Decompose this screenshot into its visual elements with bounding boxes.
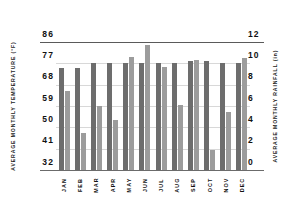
- y-axis-left-tick-label: 50: [14, 115, 54, 124]
- y-axis-right-tick-label: 6: [248, 94, 288, 103]
- bar-group-oct: [202, 42, 218, 170]
- x-axis-label-sep: SEP: [190, 178, 196, 192]
- x-axis-label-aug: AUG: [174, 177, 180, 192]
- temperature-bar: [156, 63, 161, 170]
- rainfall-bar: [178, 105, 183, 170]
- bar-group-sep: [185, 42, 201, 170]
- x-axis-label-jul: JUL: [158, 178, 164, 191]
- bar-group-apr: [105, 42, 121, 170]
- x-axis-label-slot: MAR: [88, 172, 104, 208]
- x-axis-label-nov: NOV: [223, 178, 229, 193]
- temperature-bar: [59, 68, 64, 170]
- rainfall-bar: [113, 120, 118, 170]
- x-axis-label-slot: OCT: [202, 172, 218, 208]
- rainfall-bar: [226, 112, 231, 170]
- bar-group-dec: [234, 42, 250, 170]
- x-axis-label-slot: AUG: [169, 172, 185, 208]
- x-axis-label-slot: APR: [105, 172, 121, 208]
- x-axis-label-slot: JAN: [56, 172, 72, 208]
- rainfall-bar: [162, 67, 167, 170]
- climate-bar-chart: AVERAGE MONTHLY TEMPERATURE (°F) AVERAGE…: [0, 0, 288, 210]
- rainfall-bar: [210, 150, 215, 170]
- x-axis-label-jun: JUN: [142, 178, 148, 192]
- temperature-bar: [204, 61, 209, 170]
- temperature-bar: [75, 68, 80, 170]
- bar-group-jan: [56, 42, 72, 170]
- x-axis-label-slot: SEP: [185, 172, 201, 208]
- y-axis-left-tick-label: 32: [14, 158, 54, 167]
- x-axis-label-dec: DEC: [239, 178, 245, 193]
- y-axis-left-ticks: 86776859504132: [14, 34, 54, 170]
- temperature-bar: [139, 63, 144, 170]
- rainfall-bar: [97, 106, 102, 170]
- x-axis-label-apr: APR: [110, 178, 116, 193]
- temperature-bar: [91, 63, 96, 170]
- bar-group-nov: [218, 42, 234, 170]
- y-axis-right-tick-label: 8: [248, 72, 288, 81]
- y-axis-left-tick-label: 68: [14, 72, 54, 81]
- rainfall-bar: [242, 58, 247, 170]
- x-axis-label-jan: JAN: [61, 178, 67, 192]
- rainfall-bar: [129, 57, 134, 170]
- rainfall-bar: [194, 60, 199, 170]
- bar-group-aug: [169, 42, 185, 170]
- temperature-bar: [107, 63, 112, 170]
- bar-group-jul: [153, 42, 169, 170]
- temperature-bar: [236, 63, 241, 170]
- x-axis-label-feb: FEB: [77, 178, 83, 192]
- y-axis-left-tick-label: 41: [14, 136, 54, 145]
- y-axis-right-tick-label: 12: [248, 30, 288, 39]
- bar-group-jun: [137, 42, 153, 170]
- bar-group-feb: [72, 42, 88, 170]
- x-axis-label-slot: MAY: [121, 172, 137, 208]
- plot-area: [56, 42, 250, 170]
- temperature-bar: [220, 63, 225, 170]
- x-axis-label-slot: FEB: [72, 172, 88, 208]
- y-axis-left-tick-label: 86: [14, 30, 54, 39]
- y-axis-right-ticks: 121086420: [248, 34, 288, 170]
- rainfall-bar: [81, 133, 86, 170]
- y-axis-left-tick-label: 77: [14, 51, 54, 60]
- x-axis-label-slot: DEC: [234, 172, 250, 208]
- x-axis-label-oct: OCT: [207, 178, 213, 193]
- rainfall-bar: [145, 45, 150, 170]
- temperature-bar: [188, 61, 193, 170]
- bar-group-mar: [88, 42, 104, 170]
- temperature-bar: [172, 63, 177, 170]
- x-axis-label-slot: NOV: [218, 172, 234, 208]
- y-axis-right-tick-label: 10: [248, 51, 288, 60]
- y-axis-left-tick-label: 59: [14, 94, 54, 103]
- plot-baseline: [40, 170, 264, 171]
- x-axis-label-slot: JUL: [153, 172, 169, 208]
- rainfall-bar: [65, 91, 70, 170]
- temperature-bar: [123, 63, 128, 170]
- x-axis-labels: JANFEBMARAPRMAYJUNJULAUGSEPOCTNOVDEC: [56, 172, 250, 208]
- bar-group-may: [121, 42, 137, 170]
- y-axis-right-tick-label: 4: [248, 115, 288, 124]
- y-axis-right-tick-label: 0: [248, 158, 288, 167]
- x-axis-label-slot: JUN: [137, 172, 153, 208]
- x-axis-label-may: MAY: [126, 178, 132, 193]
- bar-groups: [56, 42, 250, 170]
- y-axis-right-tick-label: 2: [248, 136, 288, 145]
- x-axis-label-mar: MAR: [93, 177, 99, 193]
